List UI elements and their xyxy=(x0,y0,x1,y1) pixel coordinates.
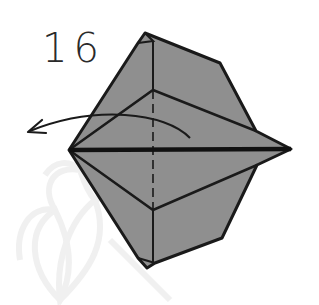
diagram-stage: 16 xyxy=(0,0,319,305)
thick-center-edge xyxy=(69,149,291,150)
step-number: 16 xyxy=(42,28,105,68)
